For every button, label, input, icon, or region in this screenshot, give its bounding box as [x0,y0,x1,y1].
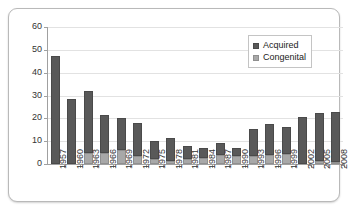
y-axis-tick-label: 10 [9,136,42,145]
y-axis-tick-label: 20 [9,113,42,122]
legend-item-congenital: Congenital [253,52,306,63]
y-axis-tick-label: 0 [9,159,42,168]
y-axis-tick-label: 40 [9,68,42,77]
x-axis-tick-label: 1963 [92,149,101,169]
x-axis-tick-label: 1990 [241,149,250,169]
x-axis-tick-label: 1957 [59,149,68,169]
x-axis-tick-label: 1993 [257,149,266,169]
x-axis-tick-label: 1984 [208,149,217,169]
x-axis-tick-label: 2008 [340,149,349,169]
chart-frame: 6050403020100 19571960196319661969197219… [8,8,340,202]
bar-segment-acquired[interactable] [51,56,60,164]
x-axis-tick-label: 1960 [76,149,85,169]
x-axis-tick-label: 2005 [323,149,332,169]
y-axis-tick-label: 60 [9,22,42,31]
legend-swatch-acquired [253,43,259,49]
y-axis-tick-label: 30 [9,91,42,100]
legend-label-acquired: Acquired [263,41,299,50]
x-axis-tick-label: 1975 [158,149,167,169]
legend-swatch-congenital [253,55,259,61]
x-axis-tick-label: 1966 [109,149,118,169]
legend-label-congenital: Congenital [263,53,306,62]
x-axis-tick-label: 1987 [224,149,233,169]
bar-segment-acquired[interactable] [117,118,126,150]
y-axis-tick-label: 50 [9,45,42,54]
x-axis-tick-label: 1972 [142,149,151,169]
bar-column[interactable] [51,56,60,164]
legend-item-acquired: Acquired [253,40,306,51]
x-axis-tick-label: 1981 [191,149,200,169]
x-axis-tick-label: 1969 [125,149,134,169]
chart-legend: Acquired Congenital [248,35,312,68]
bar-segment-acquired[interactable] [84,91,93,153]
x-axis-tick-label: 2002 [307,149,316,169]
x-axis-tick-label: 1999 [290,149,299,169]
bar-segment-acquired[interactable] [100,115,109,153]
x-axis-tick-label: 1978 [175,149,184,169]
x-axis-tick-label: 1996 [274,149,283,169]
